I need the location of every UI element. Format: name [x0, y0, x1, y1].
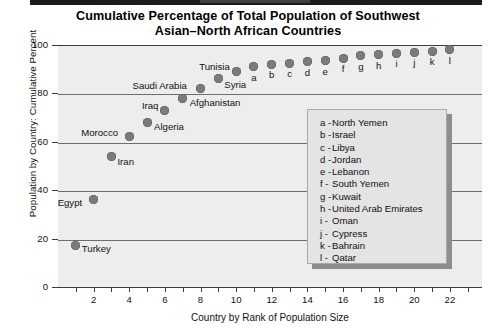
x-tick-label-14: 14 — [294, 294, 320, 305]
legend-item-key: l - — [320, 252, 332, 264]
data-point-label: Egypt — [58, 197, 83, 208]
chart-title: Cumulative Percentage of Total Populatio… — [28, 9, 468, 39]
legend-item-name: South Yemen — [332, 178, 389, 189]
y-tick-label-0: 0 — [22, 281, 48, 292]
x-tick-mark-17 — [361, 287, 362, 292]
legend-item-key: j - — [320, 228, 332, 240]
x-tick-label-18: 18 — [366, 294, 392, 305]
legend-item: j -Cypress — [320, 228, 446, 240]
data-point-letter: f — [336, 63, 350, 74]
data-point — [321, 56, 330, 65]
legend-item-name: Oman — [332, 215, 358, 226]
y-tick-mark-80 — [52, 93, 58, 94]
x-tick-mark-23 — [468, 287, 469, 292]
y-tick-mark-0 — [52, 287, 58, 288]
legend-item-name: Israel — [332, 129, 355, 140]
x-tick-mark-13 — [290, 287, 291, 292]
data-point-letter: l — [443, 55, 457, 66]
x-tick-mark-9 — [218, 287, 219, 292]
data-point-label: Algeria — [154, 121, 184, 132]
legend-item: i -Oman — [320, 215, 446, 227]
legend-item: c -Libya — [320, 142, 446, 154]
data-point-label: Iraq — [142, 100, 159, 111]
x-axis-line — [58, 287, 482, 288]
legend-item-key: i - — [320, 215, 332, 227]
y-tick-mark-40 — [52, 190, 58, 191]
data-point-letter: d — [300, 67, 314, 78]
x-tick-label-16: 16 — [330, 294, 356, 305]
data-point-label: Tunisia — [199, 61, 230, 72]
data-point — [392, 49, 401, 58]
legend-item: b -Israel — [320, 129, 446, 141]
legend-item-key: f - — [320, 178, 332, 190]
legend-item: g -Kuwait — [320, 191, 446, 203]
x-tick-label-6: 6 — [152, 294, 178, 305]
x-tick-mark-10 — [236, 287, 237, 292]
x-tick-mark-16 — [343, 287, 344, 292]
x-tick-mark-5 — [147, 287, 148, 292]
x-tick-mark-19 — [396, 287, 397, 292]
x-tick-label-12: 12 — [259, 294, 285, 305]
y-tick-mark-100 — [52, 45, 58, 46]
data-point-letter: e — [318, 66, 332, 77]
data-point-label: Turkey — [82, 243, 111, 254]
legend-item-name: Qatar — [332, 252, 356, 263]
x-tick-label-2: 2 — [81, 294, 107, 305]
x-tick-mark-22 — [450, 287, 451, 292]
x-tick-mark-15 — [325, 287, 326, 292]
data-point-label: Iran — [117, 156, 134, 167]
y-tick-mark-60 — [52, 142, 58, 143]
legend-item-name: Cypress — [332, 228, 367, 239]
legend-item-name: Lebanon — [332, 166, 369, 177]
x-tick-mark-8 — [201, 287, 202, 292]
data-point — [232, 67, 241, 76]
data-point-letter: g — [354, 61, 368, 72]
legend-item-name: Kuwait — [332, 191, 361, 202]
data-point — [196, 84, 205, 93]
legend-item: h -United Arab Emirates — [320, 203, 446, 215]
x-tick-mark-3 — [111, 287, 112, 292]
data-point-label: Syria — [224, 79, 246, 90]
data-point-label: Morocco — [81, 127, 118, 138]
data-point — [178, 94, 187, 103]
data-point-letter: c — [283, 68, 297, 79]
legend-item-key: h - — [320, 203, 332, 215]
y-axis-label: Population by Country: Cumulative Percen… — [27, 0, 38, 249]
gridline-y-80 — [58, 94, 482, 95]
data-point — [107, 152, 116, 161]
data-point-letter: h — [372, 60, 386, 71]
x-tick-label-8: 8 — [188, 294, 214, 305]
x-tick-mark-2 — [94, 287, 95, 292]
legend-item: k -Bahrain — [320, 240, 446, 252]
data-point-letter: a — [247, 72, 261, 83]
x-tick-label-20: 20 — [401, 294, 427, 305]
legend-item-name: Bahrain — [332, 240, 365, 251]
data-point-label: Saudi Arabia — [133, 80, 187, 91]
x-tick-mark-6 — [165, 287, 166, 292]
legend-item-key: e - — [320, 166, 332, 178]
chart-figure: Cumulative Percentage of Total Populatio… — [0, 0, 494, 336]
x-tick-label-10: 10 — [223, 294, 249, 305]
data-point — [143, 118, 152, 127]
x-tick-mark-18 — [379, 287, 380, 292]
legend-item-key: d - — [320, 154, 332, 166]
legend-item: l -Qatar — [320, 252, 446, 264]
x-tick-mark-4 — [129, 287, 130, 292]
x-tick-mark-7 — [183, 287, 184, 292]
chart-title-line-2: Asian–North African Countries — [28, 24, 468, 39]
legend-item-name: United Arab Emirates — [332, 203, 423, 214]
x-axis-label: Country by Rank of Population Size — [58, 312, 482, 323]
legend-box: a -North Yemenb -Israelc -Libyad -Jordan… — [307, 109, 447, 264]
data-point — [339, 54, 348, 63]
data-point-letter: b — [265, 69, 279, 80]
legend-item-name: Libya — [332, 142, 355, 153]
legend-item-key: b - — [320, 129, 332, 141]
data-point-letter: i — [389, 58, 403, 69]
data-point-label: Afghanistan — [190, 97, 241, 108]
y-tick-mark-20 — [52, 239, 58, 240]
legend-item-name: Jordan — [332, 154, 361, 165]
x-tick-mark-14 — [307, 287, 308, 292]
data-point — [410, 48, 419, 57]
x-tick-mark-20 — [414, 287, 415, 292]
legend-item-key: k - — [320, 240, 332, 252]
